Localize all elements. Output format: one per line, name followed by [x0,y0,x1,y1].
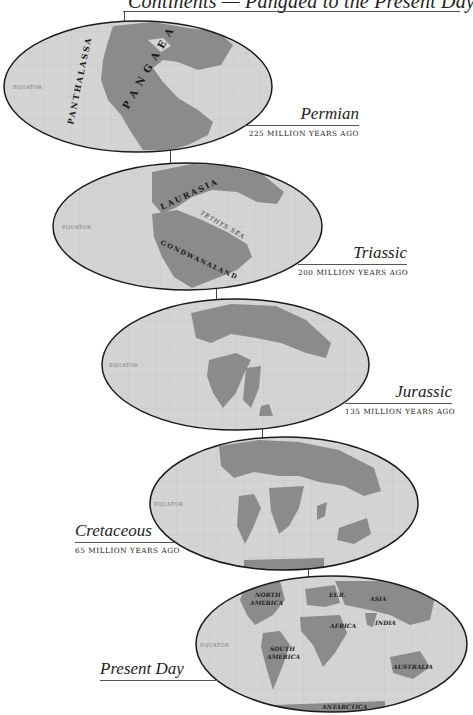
label-india: INDIA [374,619,396,626]
era-rule [245,125,359,126]
label-north-america-2: AMERICA [249,599,283,606]
map-permian: EQUATOR PANTHALASSA PANGAEA [3,20,273,153]
globe-cretaceous: EQUATOR [149,436,419,571]
label-australia: AUSTRALIA [392,663,433,670]
map-jurassic: EQUATOR [101,298,370,431]
era-age: 135 million years ago [345,407,452,416]
map-triassic: EQUATOR LAURASIA TETHYS SEA GONDWANALAND [52,162,323,291]
era-jurassic: Jurassic 135 million years ago [345,382,452,416]
label-south-america-2: AMERICA [266,653,300,660]
globe-present-day: EQUATOR NORTH AMERICA EUR. ASIA AFRICA I… [195,575,468,713]
era-age: 65 million years ago [75,546,175,555]
era-rule [75,542,175,543]
era-name: Cretaceous [75,521,175,541]
label-antarctica: ANTARCTICA [321,703,368,710]
equator-label: EQUATOR [62,224,91,230]
era-rule [100,680,218,681]
equator-label: EQUATOR [200,642,229,648]
label-south-america-1: SOUTH [270,645,295,652]
era-rule [298,264,407,265]
era-triassic: Triassic 200 million years ago [298,243,407,277]
era-present-day: Present Day [100,659,218,681]
map-cretaceous: EQUATOR [149,436,419,571]
era-age: 225 million years ago [245,129,359,138]
label-asia: ASIA [369,595,387,602]
label-europe: EUR. [328,591,346,598]
era-name: Present Day [100,659,218,679]
era-name: Jurassic [345,382,452,402]
map-present-day: EQUATOR NORTH AMERICA EUR. ASIA AFRICA I… [195,575,468,713]
globe-jurassic: EQUATOR [101,298,370,431]
title-rule [123,11,460,12]
era-name: Permian [245,104,359,124]
label-north-america-1: NORTH [254,591,281,598]
era-age: 200 million years ago [298,268,407,277]
equator-label: EQUATOR [109,362,138,368]
era-rule [345,403,452,404]
equator-label: EQUATOR [13,84,42,90]
globe-permian: EQUATOR PANTHALASSA PANGAEA [3,20,273,153]
label-africa: AFRICA [329,622,356,629]
era-name: Triassic [298,243,407,263]
globe-triassic: EQUATOR LAURASIA TETHYS SEA GONDWANALAND [52,162,323,291]
equator-label: EQUATOR [154,501,183,507]
era-permian: Permian 225 million years ago [245,104,359,138]
era-cretaceous: Cretaceous 65 million years ago [75,521,175,555]
